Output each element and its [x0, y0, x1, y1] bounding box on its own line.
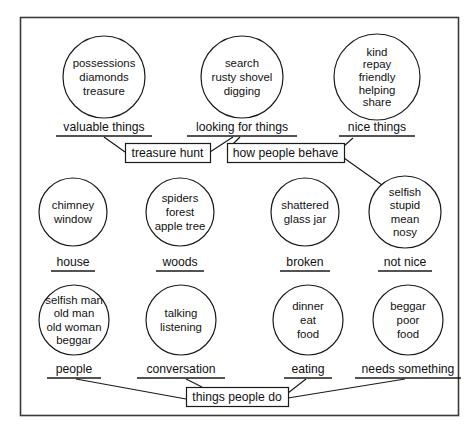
bubble-word: spiders — [162, 192, 199, 204]
connector-line — [104, 137, 125, 152]
category-label: needs something — [362, 362, 455, 376]
bubble-word: food — [397, 328, 419, 340]
connector-line — [76, 379, 186, 399]
connector-line — [344, 158, 382, 185]
bubble-word: stupid — [390, 199, 420, 211]
bubble-word: helping — [359, 84, 396, 96]
connector-layer — [76, 137, 405, 399]
category-label: people — [56, 362, 93, 376]
category-label: valuable things — [63, 120, 144, 134]
category-label: nice things — [348, 120, 406, 134]
bubble-word: digging — [224, 85, 261, 97]
bubble-word: diamonds — [79, 71, 129, 83]
word-bubble-circle[interactable] — [146, 285, 216, 355]
category-label: broken — [286, 255, 323, 269]
bubble-word: selfish — [389, 186, 421, 198]
word-bubble-group[interactable]: shatteredglass jar — [271, 178, 339, 246]
bubble-word: rusty shovel — [212, 71, 273, 83]
word-bubble-group[interactable]: possessionsdiamondstreasure — [63, 36, 145, 118]
bubble-word: glass jar — [284, 213, 327, 225]
category-label: eating — [291, 362, 324, 376]
connector-line — [186, 379, 202, 387]
bubble-word: listening — [160, 321, 202, 333]
word-bubble-group[interactable]: kindrepayfriendlyhelpingshare — [334, 34, 420, 120]
bubble-word: kind — [367, 46, 388, 58]
bubble-word: shattered — [281, 199, 329, 211]
word-bubble-group[interactable]: spidersforestapple tree — [146, 178, 214, 246]
word-bubble-group[interactable]: selfish manold manold womanbeggar — [39, 285, 109, 355]
treasure-hunt-box[interactable]: treasure hunt — [126, 144, 211, 163]
word-bubble-group[interactable]: searchrusty shoveldigging — [201, 36, 283, 118]
bubble-word: possessions — [73, 57, 136, 69]
diagram-page: possessionsdiamondstreasurevaluable thin… — [0, 0, 474, 431]
concept-box-label: treasure hunt — [132, 146, 204, 160]
bubble-word: beggar — [390, 300, 426, 312]
bubble-word: nosy — [393, 226, 417, 238]
bubble-word: mean — [391, 213, 420, 225]
bubble-word: poor — [397, 314, 420, 326]
bubble-word: search — [225, 57, 259, 69]
word-bubble-group[interactable]: selfishstupidmeannosy — [369, 176, 441, 248]
category-label: conversation — [146, 362, 215, 376]
bubble-word: repay — [363, 58, 392, 70]
word-web-diagram: possessionsdiamondstreasurevaluable thin… — [0, 0, 474, 431]
bubble-word: chimney — [52, 199, 95, 211]
connector-line — [288, 379, 306, 393]
bubble-word: eat — [300, 314, 317, 326]
concept-box-label: things people do — [192, 390, 282, 404]
word-bubble-circle[interactable] — [39, 178, 107, 246]
bubble-word: forest — [166, 206, 195, 218]
word-bubble-group[interactable]: beggarpoorfood — [373, 285, 443, 355]
bubble-word: food — [297, 328, 319, 340]
category-label: looking for things — [196, 120, 288, 134]
category-label: not nice — [384, 255, 427, 269]
bubble-word: window — [53, 213, 93, 225]
concept-box-label: how people behave — [233, 146, 339, 160]
bubble-word: selfish man — [45, 294, 103, 306]
word-bubble-circle[interactable] — [271, 178, 339, 246]
connector-line — [288, 379, 405, 398]
category-label: woods — [161, 255, 197, 269]
bubble-word: dinner — [292, 300, 324, 312]
bubble-word: share — [363, 96, 392, 108]
bubble-layer: possessionsdiamondstreasurevaluable thin… — [39, 34, 461, 378]
word-bubble-group[interactable]: talkinglistening — [146, 285, 216, 355]
things-people-do-box[interactable]: things people do — [187, 388, 289, 407]
word-bubble-group[interactable]: dinnereatfood — [273, 285, 343, 355]
category-label: house — [56, 255, 89, 269]
word-bubble-group[interactable]: chimneywindow — [39, 178, 107, 246]
bubble-word: friendly — [359, 71, 396, 83]
connector-line — [344, 138, 353, 146]
bubble-word: treasure — [83, 85, 125, 97]
bubble-word: old man — [54, 307, 95, 319]
bubble-word: apple tree — [155, 220, 206, 232]
how-people-behave-box[interactable]: how people behave — [228, 144, 345, 163]
bubble-word: beggar — [56, 334, 92, 346]
bubble-word: talking — [165, 307, 198, 319]
bubble-word: old woman — [46, 321, 101, 333]
